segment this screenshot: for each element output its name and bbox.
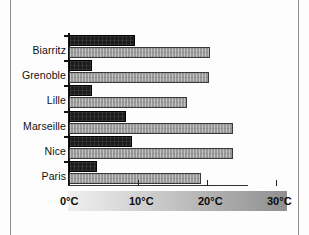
bar-row: Biarritz (0, 35, 309, 60)
category-label: Biarritz (0, 44, 66, 56)
category-label: Grenoble (0, 69, 66, 81)
x-axis-tick (276, 180, 277, 186)
x-axis-tick (207, 180, 208, 186)
bar-minimum (69, 85, 92, 96)
bar-maximum (69, 97, 187, 108)
x-axis-tick-label: 30°C (267, 195, 292, 207)
bar-maximum (69, 123, 233, 134)
bar-minimum (69, 60, 92, 71)
bar-row: Lille (0, 85, 309, 110)
x-axis-tick-label: 0°C (60, 195, 78, 207)
bar-minimum (69, 35, 135, 46)
chart-frame: BiarritzGrenobleLilleMarseilleNiceParis … (0, 0, 309, 235)
bar-row: Marseille (0, 111, 309, 136)
x-axis-tick (69, 180, 70, 186)
temperature-gradient-scale (68, 191, 287, 211)
bar-row: Nice (0, 136, 309, 161)
bar-maximum (69, 47, 210, 58)
bar-row: Grenoble (0, 60, 309, 85)
bar-minimum (69, 111, 126, 122)
bar-maximum (69, 72, 209, 83)
category-label: Nice (0, 145, 66, 157)
x-axis-tick-label: 10°C (129, 195, 154, 207)
x-axis-tick (138, 180, 139, 186)
bar-maximum (69, 148, 233, 159)
plot-area: BiarritzGrenobleLilleMarseilleNiceParis … (0, 0, 309, 235)
bar-maximum (69, 173, 201, 184)
bar-row: Paris (0, 161, 309, 186)
x-axis-tick-label: 20°C (198, 195, 223, 207)
bar-minimum (69, 161, 97, 172)
category-label: Paris (0, 170, 66, 182)
category-label: Lille (0, 94, 66, 106)
category-label: Marseille (0, 120, 66, 132)
bar-minimum (69, 136, 132, 147)
